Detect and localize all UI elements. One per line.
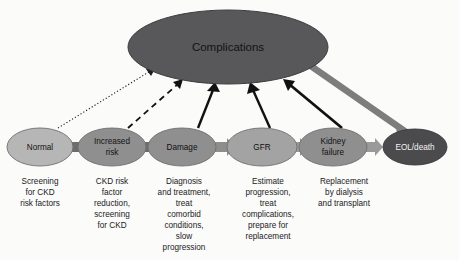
caption-line: treat — [176, 199, 193, 208]
caption-line: and transplant — [318, 199, 371, 208]
diagram-canvas: Complications Normal Increased risk Dama… — [0, 0, 459, 260]
node-increased-risk[interactable]: Increased risk — [78, 128, 146, 166]
node-complications[interactable]: Complications — [128, 10, 328, 84]
kidney-failure-label-line1: Kidney — [320, 137, 346, 146]
caption-line: for CKD — [25, 188, 54, 197]
increased-risk-label-line2: risk — [106, 148, 120, 157]
caption-line: for CKD — [97, 221, 126, 230]
caption-line: prepare for — [248, 221, 288, 230]
caption-kidney-failure: Replacement by dialysis and transplant — [318, 177, 371, 208]
damage-label: Damage — [167, 143, 198, 152]
caption-line: screening — [94, 210, 130, 219]
caption-normal: Screening for CKD risk factors — [20, 177, 60, 208]
caption-line: comorbid — [167, 210, 201, 219]
caption-line: and treatment, — [158, 188, 211, 197]
kidney-failure-label-line2: failure — [322, 148, 345, 157]
caption-increased-risk: CKD risk factor reduction, screening for… — [94, 177, 130, 230]
normal-label: Normal — [27, 143, 54, 152]
caption-line: replacement — [245, 232, 291, 241]
increased-risk-ellipse — [78, 128, 146, 166]
node-kidney-failure[interactable]: Kidney failure — [299, 128, 367, 166]
caption-line: Screening — [22, 177, 59, 186]
gfr-label: GFR — [253, 143, 270, 152]
node-normal[interactable]: Normal — [7, 128, 73, 166]
increased-risk-label-line1: Increased — [94, 137, 130, 146]
caption-line: by dialysis — [325, 188, 363, 197]
eol-death-label: EOL/death — [395, 143, 435, 152]
caption-line: treat — [260, 199, 277, 208]
node-gfr[interactable]: GFR — [227, 128, 297, 166]
caption-line: Diagnosis — [166, 177, 202, 186]
kidney-failure-ellipse — [299, 128, 367, 166]
caption-line: Replacement — [320, 177, 369, 186]
caption-line: slow — [176, 232, 192, 241]
caption-line: reduction, — [94, 199, 130, 208]
node-eol-death[interactable]: EOL/death — [383, 129, 447, 165]
caption-line: complications, — [242, 210, 294, 219]
complications-label: Complications — [192, 41, 264, 53]
caption-line: CKD risk — [96, 177, 129, 186]
caption-line: Estimate — [252, 177, 284, 186]
caption-line: progression — [163, 243, 206, 252]
caption-line: progression, — [245, 188, 290, 197]
caption-line: conditions, — [164, 221, 203, 230]
node-damage[interactable]: Damage — [148, 128, 216, 166]
caption-line: risk factors — [20, 199, 60, 208]
caption-line: factor — [102, 188, 123, 197]
